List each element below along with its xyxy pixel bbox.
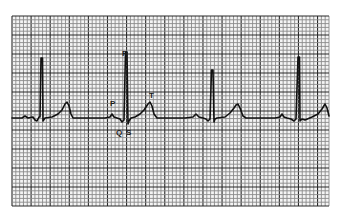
label-r-wave: R	[122, 49, 128, 58]
label-s-wave: S	[126, 128, 132, 137]
label-t-wave: T	[149, 91, 154, 100]
label-p-wave: P	[110, 99, 116, 108]
ecg-graph: R P T Q S	[0, 0, 341, 221]
ecg-grid	[12, 16, 329, 206]
label-q-wave: Q	[116, 128, 122, 137]
ecg-strip: R P T Q S	[0, 0, 341, 221]
